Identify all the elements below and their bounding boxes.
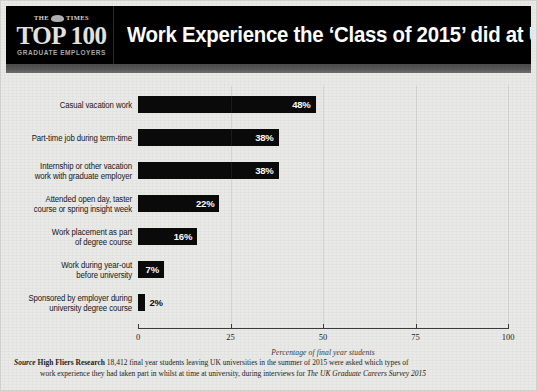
bar-track: 48% xyxy=(138,88,520,121)
axis-tick xyxy=(323,324,324,329)
bar-value-label: 38% xyxy=(255,165,273,176)
source-body-2: work experience they had taken part in w… xyxy=(40,369,307,378)
page-title: Work Experience the ‘Class of 2015’ did … xyxy=(114,6,531,64)
header-shadow-band xyxy=(6,64,531,73)
bar-category-label: Internship or other vacationwork with gr… xyxy=(14,161,132,181)
bar-value-label: 2% xyxy=(149,297,162,308)
bar-category-label-line1: Work during year-out xyxy=(61,260,132,270)
chart-page: THE TIMES TOP 100 GRADUATE EMPLOYERS Wor… xyxy=(0,0,537,391)
bar-category-label-line2: university degree course xyxy=(14,303,132,313)
bar: 7% xyxy=(138,261,164,278)
bar-category-label: Part-time job during term-time xyxy=(14,133,132,143)
bar-row: Part-time job during term-time38% xyxy=(6,121,531,154)
bar-category-label-line1: Attended open day, taster xyxy=(46,194,132,204)
chart-header: THE TIMES TOP 100 GRADUATE EMPLOYERS Wor… xyxy=(6,6,531,64)
logo-top-100: TOP 100 xyxy=(16,23,107,48)
bar-row: Internship or other vacationwork with gr… xyxy=(6,154,531,187)
axis-caption: Percentage of final year students xyxy=(138,348,508,357)
bar-category-label-line1: Casual vacation work xyxy=(60,100,132,110)
gridline xyxy=(416,86,417,328)
masthead-the: THE xyxy=(34,15,49,22)
bar: 38% xyxy=(138,129,279,146)
times-masthead: THE TIMES xyxy=(16,15,107,22)
bar-value-label: 16% xyxy=(174,231,192,242)
axis-tick-label: 0 xyxy=(136,332,140,342)
bar-row: Work during year-outbefore university7% xyxy=(6,253,531,286)
source-organisation: High Fliers Research xyxy=(38,358,105,367)
axis-tick-label: 100 xyxy=(502,332,515,342)
bar: 2% xyxy=(138,294,145,311)
source-body-1: 18,412 final year students leaving UK un… xyxy=(107,358,409,367)
gridline xyxy=(231,86,232,328)
bar-track: 2% xyxy=(138,286,520,319)
bar-track: 7% xyxy=(138,253,520,286)
bar-value-label: 7% xyxy=(146,264,159,275)
axis-tick-label: 50 xyxy=(319,332,328,342)
bar-track: 38% xyxy=(138,121,520,154)
axis-tick xyxy=(138,324,139,329)
bar-category-label: Sponsored by employer duringuniversity d… xyxy=(14,293,132,313)
bar-category-label-line2: before university xyxy=(14,270,132,280)
bar: 22% xyxy=(138,195,219,212)
axis-tick xyxy=(416,324,417,329)
chart-body: Casual vacation work48%Part-time job dur… xyxy=(6,80,531,348)
times-crest-icon xyxy=(51,15,64,22)
bar-category-label-line1: Part-time job during term-time xyxy=(32,133,132,143)
bar-category-label: Casual vacation work xyxy=(14,100,132,110)
bar-category-label: Attended open day, tastercourse or sprin… xyxy=(14,194,132,214)
gridline xyxy=(323,86,324,328)
source-line-2: work experience they had taken part in w… xyxy=(14,369,526,380)
bar-track: 38% xyxy=(138,154,520,187)
logo-graduate-employers: GRADUATE EMPLOYERS xyxy=(16,50,107,57)
bar-row: Work placement as partof degree course16… xyxy=(6,220,531,253)
times-top100-logo: THE TIMES TOP 100 GRADUATE EMPLOYERS xyxy=(6,6,114,64)
bar-category-label-line1: Work placement as part xyxy=(52,227,132,237)
axis-tick xyxy=(231,324,232,329)
axis-tick-label: 25 xyxy=(226,332,235,342)
bar-rows: Casual vacation work48%Part-time job dur… xyxy=(6,88,531,319)
bar-value-label: 48% xyxy=(292,99,310,110)
bar: 48% xyxy=(138,96,316,113)
bar-track: 16% xyxy=(138,220,520,253)
axis-tick-label: 75 xyxy=(411,332,420,342)
bar-category-label-line1: Sponsored by employer during xyxy=(28,293,132,303)
page-title-text: Work Experience the ‘Class of 2015’ did … xyxy=(127,24,531,47)
bar-value-label: 38% xyxy=(255,132,273,143)
source-note: Source High Fliers Research 18,412 final… xyxy=(14,358,526,379)
bar-category-label-line2: of degree course xyxy=(14,237,132,247)
source-publication: The UK Graduate Careers Survey 2015 xyxy=(307,369,426,378)
bar-value-label: 22% xyxy=(196,198,214,209)
bar-row: Attended open day, tastercourse or sprin… xyxy=(6,187,531,220)
bar: 16% xyxy=(138,228,197,245)
bar: 38% xyxy=(138,162,279,179)
source-label: Source xyxy=(14,358,36,367)
masthead-times: TIMES xyxy=(66,15,89,22)
bar-row: Sponsored by employer duringuniversity d… xyxy=(6,286,531,319)
bar-category-label: Work placement as partof degree course xyxy=(14,227,132,247)
x-axis: 0255075100 Percentage of final year stud… xyxy=(138,328,514,329)
bar-category-label: Work during year-outbefore university xyxy=(14,260,132,280)
bar-track: 22% xyxy=(138,187,520,220)
bar-category-label-line2: course or spring insight week xyxy=(14,204,132,214)
bar-row: Casual vacation work48% xyxy=(6,88,531,121)
bar-category-label-line1: Internship or other vacation xyxy=(40,161,132,171)
source-line-1: Source High Fliers Research 18,412 final… xyxy=(14,358,526,369)
gridline xyxy=(508,86,509,328)
axis-tick xyxy=(508,324,509,329)
bar-category-label-line2: work with graduate employer xyxy=(14,171,132,181)
